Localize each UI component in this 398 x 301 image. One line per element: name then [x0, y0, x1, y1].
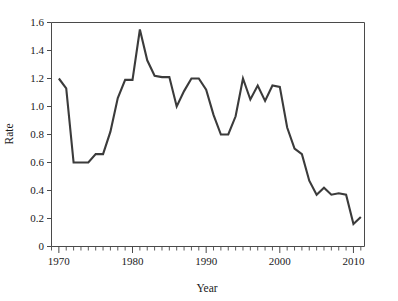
chart-figure: 00.20.40.60.81.01.21.41.6 19701980199020… — [0, 0, 398, 301]
y-tick-label: 1.4 — [30, 44, 44, 56]
y-tick-label: 0.8 — [30, 128, 44, 140]
y-tick-label: 0.2 — [30, 212, 44, 224]
y-tick-marks — [47, 23, 52, 247]
plot-frame — [52, 23, 365, 247]
x-axis-title: Year — [196, 282, 217, 294]
y-tick-label: 0.4 — [30, 184, 44, 196]
y-tick-label: 1.2 — [30, 72, 44, 84]
y-tick-label: 0.6 — [30, 156, 44, 168]
x-tick-marks — [52, 247, 361, 254]
y-tick-label: 1.6 — [30, 16, 44, 28]
x-tick-label: 2010 — [342, 255, 365, 267]
y-tick-label: 0 — [39, 240, 45, 252]
rate-series-line — [59, 30, 361, 225]
y-axis-tick-labels: 00.20.40.60.81.01.21.41.6 — [30, 16, 44, 252]
y-axis-title: Rate — [3, 123, 15, 144]
x-tick-label: 2000 — [269, 255, 292, 267]
x-tick-label: 1990 — [195, 255, 218, 267]
line-chart: 00.20.40.60.81.01.21.41.6 19701980199020… — [0, 0, 398, 301]
y-tick-label: 1.0 — [30, 100, 44, 112]
axes-frame — [52, 23, 365, 247]
x-tick-label: 1970 — [48, 255, 71, 267]
x-tick-label: 1980 — [122, 255, 145, 267]
x-axis-tick-labels: 19701980199020002010 — [48, 255, 365, 267]
